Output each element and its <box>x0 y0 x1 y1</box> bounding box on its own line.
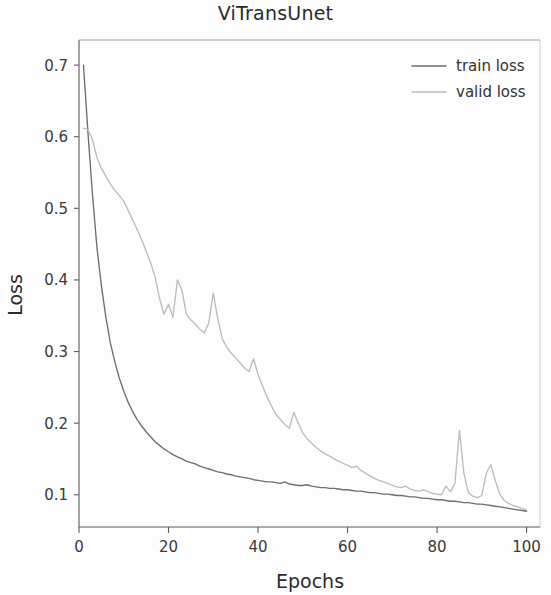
y-tick-label: 0.2 <box>44 415 68 433</box>
y-tick-label: 0.7 <box>44 57 68 75</box>
y-tick-label: 0.5 <box>44 200 68 218</box>
x-axis-ticks: 020406080100 <box>74 527 541 556</box>
chart-legend: train loss valid loss <box>412 57 526 101</box>
x-tick-label: 0 <box>74 538 84 556</box>
axes-frame <box>79 40 540 527</box>
x-tick-label: 40 <box>248 538 267 556</box>
y-axis-title: Loss <box>4 274 26 316</box>
x-axis-title: Epochs <box>276 570 344 592</box>
y-tick-label: 0.1 <box>44 486 68 504</box>
line-chart-plot: 0.10.20.30.40.50.60.7 020406080100 Epoch… <box>0 0 551 595</box>
series-line-valid-loss <box>83 128 526 510</box>
legend-label-valid-loss: valid loss <box>456 83 526 101</box>
x-tick-label: 100 <box>512 538 541 556</box>
data-series-group <box>83 65 526 511</box>
y-axis-ticks: 0.10.20.30.40.50.60.7 <box>44 57 79 505</box>
legend-label-train-loss: train loss <box>456 57 525 75</box>
chart-figure: ViTransUnet 0.10.20.30.40.50.60.7 020406… <box>0 0 551 595</box>
x-tick-label: 20 <box>159 538 178 556</box>
y-tick-label: 0.4 <box>44 271 68 289</box>
y-tick-label: 0.3 <box>44 343 68 361</box>
series-line-train-loss <box>83 65 526 511</box>
y-tick-label: 0.6 <box>44 128 68 146</box>
x-tick-label: 60 <box>338 538 357 556</box>
x-tick-label: 80 <box>428 538 447 556</box>
